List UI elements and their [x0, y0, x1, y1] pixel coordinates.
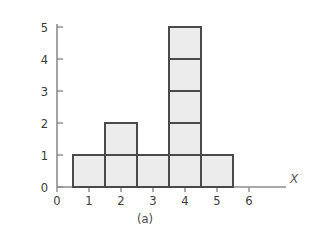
x-axis-title: X	[290, 172, 298, 186]
bar-cell	[201, 155, 233, 187]
y-tick-label-2: 2	[32, 117, 48, 131]
bar-cell	[105, 123, 137, 155]
bar-x1	[73, 155, 105, 187]
x-tick-label-6: 6	[241, 194, 257, 208]
x-tick-label-1: 1	[81, 194, 97, 208]
y-tick-label-0: 0	[32, 181, 48, 195]
x-tick-label-5: 5	[209, 194, 225, 208]
y-axis-ticks	[57, 27, 63, 187]
bar-cell	[73, 155, 105, 187]
bar-cell	[105, 155, 137, 187]
y-tick-label-4: 4	[32, 53, 48, 67]
bar-cell	[169, 123, 201, 155]
x-tick-label-4: 4	[177, 194, 193, 208]
y-tick-label-1: 1	[32, 149, 48, 163]
bars-group	[73, 27, 233, 187]
bar-cell	[169, 27, 201, 59]
histogram-figure: Frequency X 0 1 2 3 4 5 0 1 2 3 4 5 6 (a…	[0, 0, 316, 241]
bar-cell	[137, 155, 169, 187]
x-tick-label-0: 0	[49, 194, 65, 208]
bar-x2	[105, 123, 137, 187]
bar-x4	[169, 27, 201, 187]
x-tick-label-3: 3	[145, 194, 161, 208]
y-tick-label-5: 5	[32, 21, 48, 35]
figure-caption: (a)	[0, 212, 290, 226]
bar-cell	[169, 155, 201, 187]
bar-x3	[137, 155, 169, 187]
y-tick-label-3: 3	[32, 85, 48, 99]
x-tick-label-2: 2	[113, 194, 129, 208]
bar-cell	[169, 91, 201, 123]
bar-x5	[201, 155, 233, 187]
bar-cell	[169, 59, 201, 91]
